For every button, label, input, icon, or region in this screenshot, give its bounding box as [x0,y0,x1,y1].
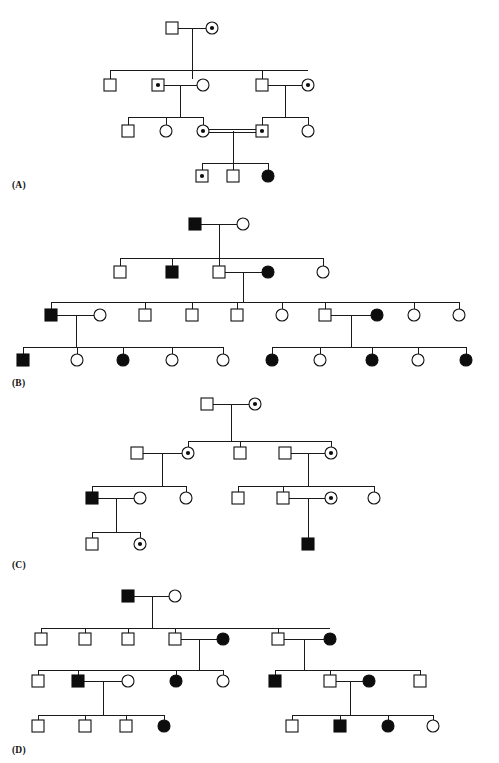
individual-circle-open[interactable] [368,492,380,504]
symbol-circle[interactable] [412,354,424,366]
individual-square-open[interactable] [166,22,178,34]
individual-square-open[interactable] [104,79,116,91]
individual-square-open[interactable] [114,266,126,278]
individual-square-open[interactable] [213,266,225,278]
individual-square-open[interactable] [232,492,244,504]
individual-square-open[interactable] [279,447,291,459]
symbol-circle[interactable] [262,266,274,278]
individual-square-open[interactable] [122,633,134,645]
individual-square-affected[interactable] [189,218,201,230]
individual-circle-affected[interactable] [363,675,375,687]
symbol-square[interactable] [79,720,91,732]
symbol-square[interactable] [232,492,244,504]
symbol-circle[interactable] [197,79,209,91]
individual-circle-open[interactable] [94,309,106,321]
symbol-circle[interactable] [453,309,465,321]
individual-circle-carrier[interactable] [197,125,209,137]
individual-square-open[interactable] [231,309,243,321]
individual-square-carrier[interactable] [196,170,208,182]
symbol-circle[interactable] [134,492,146,504]
symbol-square[interactable] [256,79,268,91]
symbol-square[interactable] [79,633,91,645]
individual-square-affected[interactable] [86,492,98,504]
symbol-square[interactable] [32,675,44,687]
symbol-square[interactable] [17,354,29,366]
individual-circle-open[interactable] [427,720,439,732]
individual-circle-carrier[interactable] [134,538,146,550]
symbol-circle[interactable] [71,354,83,366]
symbol-circle[interactable] [366,354,378,366]
individual-circle-open[interactable] [412,354,424,366]
individual-square-carrier[interactable] [152,79,164,91]
symbol-circle[interactable] [427,720,439,732]
individual-square-affected[interactable] [334,720,346,732]
symbol-square[interactable] [272,633,284,645]
symbol-square[interactable] [227,170,239,182]
symbol-square[interactable] [131,447,143,459]
individual-square-open[interactable] [201,398,213,410]
individual-circle-open[interactable] [237,218,249,230]
symbol-square[interactable] [414,675,426,687]
symbol-square[interactable] [319,309,331,321]
symbol-circle[interactable] [180,492,192,504]
individual-square-open[interactable] [234,447,246,459]
individual-square-open[interactable] [35,633,47,645]
individual-circle-open[interactable] [317,266,329,278]
individual-circle-open[interactable] [122,675,134,687]
individual-square-open[interactable] [256,79,268,91]
symbol-circle[interactable] [262,170,274,182]
individual-square-open[interactable] [32,675,44,687]
symbol-circle[interactable] [217,354,229,366]
symbol-square[interactable] [45,309,57,321]
symbol-square[interactable] [277,492,289,504]
individual-circle-affected[interactable] [324,633,336,645]
symbol-square[interactable] [86,538,98,550]
individual-square-open[interactable] [272,633,284,645]
individual-square-affected[interactable] [45,309,57,321]
individual-circle-carrier[interactable] [206,22,218,34]
individual-circle-affected[interactable] [382,720,394,732]
symbol-square[interactable] [189,218,201,230]
symbol-square[interactable] [302,538,314,550]
symbol-square[interactable] [334,720,346,732]
symbol-square[interactable] [35,633,47,645]
symbol-circle[interactable] [460,354,472,366]
individual-square-affected[interactable] [122,590,134,602]
symbol-square[interactable] [120,720,132,732]
symbol-square[interactable] [122,633,134,645]
symbol-square[interactable] [234,447,246,459]
symbol-square[interactable] [201,398,213,410]
symbol-square[interactable] [324,675,336,687]
individual-square-affected[interactable] [166,266,178,278]
symbol-circle[interactable] [217,675,229,687]
symbol-square[interactable] [166,22,178,34]
individual-circle-carrier[interactable] [325,492,337,504]
individual-square-affected[interactable] [269,675,281,687]
individual-circle-open[interactable] [197,79,209,91]
symbol-circle[interactable] [382,720,394,732]
symbol-circle[interactable] [160,125,172,137]
symbol-circle[interactable] [314,354,326,366]
individual-circle-open[interactable] [217,675,229,687]
symbol-square[interactable] [269,675,281,687]
individual-square-open[interactable] [186,309,198,321]
symbol-circle[interactable] [371,309,383,321]
individual-square-open[interactable] [131,447,143,459]
individual-circle-affected[interactable] [117,354,129,366]
individual-circle-affected[interactable] [170,675,182,687]
symbol-circle[interactable] [117,354,129,366]
individual-circle-open[interactable] [71,354,83,366]
individual-square-carrier[interactable] [256,125,268,137]
individual-circle-affected[interactable] [366,354,378,366]
individual-square-open[interactable] [120,720,132,732]
individual-circle-open[interactable] [166,354,178,366]
symbol-square[interactable] [231,309,243,321]
individual-circle-carrier[interactable] [302,79,314,91]
individual-circle-open[interactable] [276,309,288,321]
individual-circle-open[interactable] [160,125,172,137]
symbol-circle[interactable] [363,675,375,687]
individual-square-open[interactable] [286,720,298,732]
symbol-circle[interactable] [276,309,288,321]
symbol-square[interactable] [32,720,44,732]
individual-circle-open[interactable] [302,125,314,137]
